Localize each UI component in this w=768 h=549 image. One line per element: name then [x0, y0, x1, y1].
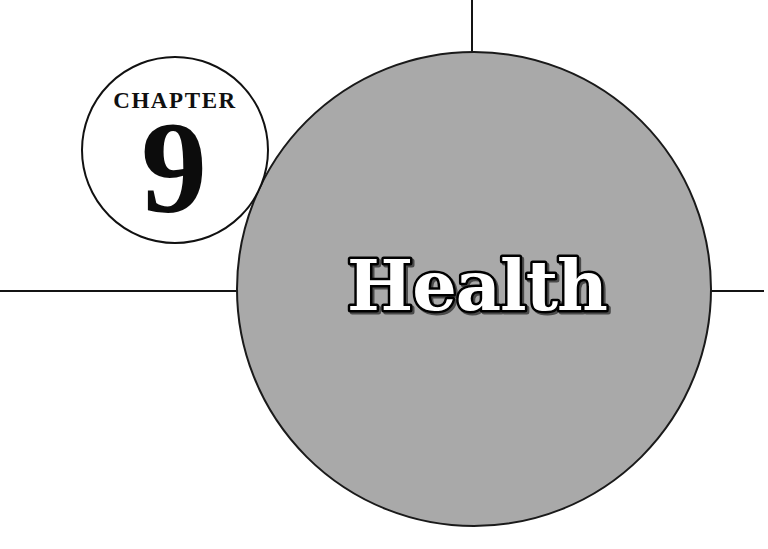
title-text-group: Health Health: [347, 244, 609, 329]
chapter-number: 9: [141, 94, 207, 241]
title-text: Health: [347, 244, 607, 327]
chapter-opener-artwork: Health Health CHAPTER 9: [0, 0, 768, 549]
chapter-opener-page: Health Health CHAPTER 9: [0, 0, 768, 549]
